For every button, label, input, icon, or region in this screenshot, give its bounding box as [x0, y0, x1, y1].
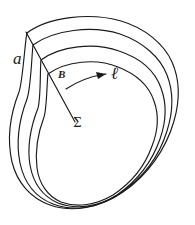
contour-label: ℓ [111, 65, 118, 82]
toroid-diagram-svg [0, 0, 195, 225]
cross-section-label: Σ [73, 117, 81, 129]
torus-inner-loop [29, 46, 165, 207]
cross-section-cut-line [26, 32, 75, 122]
figure-root: a B ℓ Σ [0, 0, 195, 225]
torus-middle-loop [18, 30, 172, 209]
cut-width-label: a [13, 50, 22, 67]
magnetic-field-label: B [58, 69, 65, 80]
contour-direction-arrow-head [96, 72, 106, 79]
